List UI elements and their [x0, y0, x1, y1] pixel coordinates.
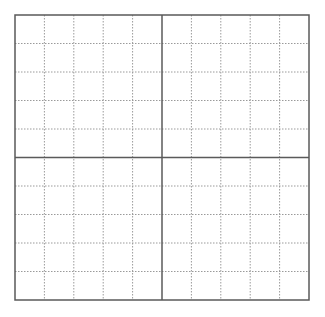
major-grid-lines — [15, 15, 309, 300]
grid-diagram — [0, 0, 325, 317]
